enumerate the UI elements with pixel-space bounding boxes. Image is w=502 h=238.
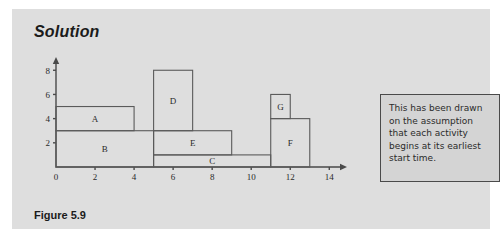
x-axis-tick-label: 6 [171,172,176,182]
note-callout-box: This has been drawn on the assumption th… [380,94,500,182]
y-axis-tick-label: 6 [46,90,51,100]
x-axis-tick-label: 4 [132,172,137,182]
figure-panel: Solution 024681012142468ABDECGF This has… [12,9,490,229]
solution-heading: Solution [34,23,100,41]
y-axis-arrow-icon [53,57,59,64]
y-axis-tick-label: 2 [46,138,51,148]
x-axis-tick-label: 8 [210,172,215,182]
x-axis-tick-label: 2 [93,172,98,182]
note-callout-text: This has been drawn on the assumption th… [389,102,491,165]
resource-histogram-chart: 024681012142468ABDECGF [36,55,356,185]
x-axis-tick-label: 0 [54,172,59,182]
page-root: Solution 024681012142468ABDECGF This has… [0,0,502,238]
figure-caption: Figure 5.9 [34,209,86,221]
x-axis-tick-label: 12 [286,172,295,182]
x-axis-arrow-icon [340,164,347,170]
activity-block-label: B [102,144,108,154]
x-axis-tick-label: 14 [325,172,335,182]
activity-block-label: A [92,114,99,124]
activity-block-label: F [288,138,293,148]
x-axis-tick-label: 10 [247,172,257,182]
activity-block-label: E [190,138,196,148]
activity-block-label: G [277,102,284,112]
chart-axes [56,63,341,167]
activity-block-label: C [209,156,215,166]
y-axis-tick-label: 4 [46,114,51,124]
y-axis-tick-label: 8 [46,66,51,76]
chart-svg: 024681012142468ABDECGF [36,55,356,185]
activity-block-label: D [170,96,177,106]
